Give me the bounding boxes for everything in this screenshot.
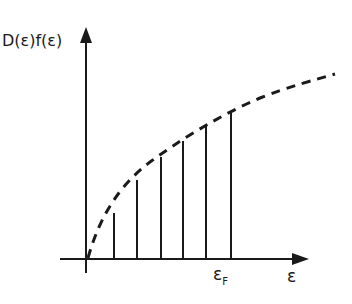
x-axis-label: ε bbox=[287, 266, 296, 286]
fermi-energy-symbol: ε bbox=[213, 264, 222, 284]
y-axis-label: D(ε)f(ε) bbox=[2, 31, 62, 50]
occupied-state-bars bbox=[114, 111, 231, 259]
fermi-energy-subscript: F bbox=[222, 276, 228, 287]
fermi-energy-label: εF bbox=[213, 264, 228, 287]
diagram-canvas: D(ε)f(ε) εF ε bbox=[0, 0, 352, 304]
density-of-states-curve bbox=[88, 74, 335, 258]
x-axis-arrowhead-icon bbox=[292, 253, 309, 265]
y-axis-arrowhead-icon bbox=[80, 27, 92, 43]
